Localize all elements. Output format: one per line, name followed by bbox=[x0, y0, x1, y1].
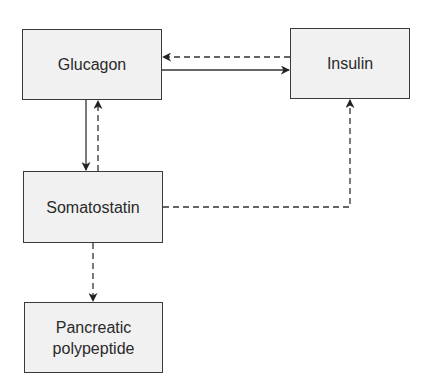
node-label: Pancreatic polypeptide bbox=[53, 317, 135, 359]
node-pancreatic-polypeptide: Pancreatic polypeptide bbox=[24, 302, 163, 373]
node-label: Insulin bbox=[327, 53, 373, 74]
edge-somatostatin-to-insulin bbox=[163, 100, 350, 207]
node-insulin: Insulin bbox=[290, 28, 410, 99]
node-label-line-2: polypeptide bbox=[53, 338, 135, 359]
node-label: Somatostatin bbox=[46, 197, 139, 218]
diagram-canvas: Glucagon Insulin Somatostatin Pancreatic… bbox=[0, 0, 432, 387]
node-label: Glucagon bbox=[58, 54, 127, 75]
node-glucagon: Glucagon bbox=[22, 29, 162, 100]
node-somatostatin: Somatostatin bbox=[23, 171, 163, 243]
node-label-line-1: Pancreatic bbox=[53, 317, 135, 338]
